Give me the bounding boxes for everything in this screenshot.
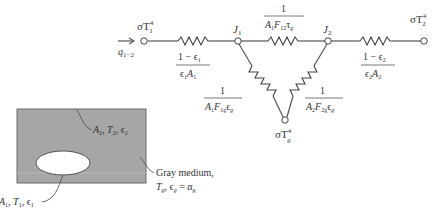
label-medium-line2: Tg, ϵg = αg [156, 181, 196, 193]
svg-text:1: 1 [220, 85, 225, 96]
svg-text:A1F12τg: A1F12τg [264, 19, 293, 31]
resistor-surface1-icon [178, 37, 210, 45]
node-eb1 [141, 38, 147, 44]
node-j2 [325, 38, 331, 44]
resistor-space12-icon [268, 37, 300, 45]
node-eb2 [421, 38, 427, 44]
svg-text:A1F1gϵg: A1F1gϵg [204, 101, 233, 113]
label-eb1: σT41 [137, 19, 154, 35]
node-ebg [282, 117, 288, 123]
node-j1 [235, 38, 241, 44]
inner-surface-1 [36, 151, 90, 175]
svg-text:1 − ϵ2: 1 − ϵ2 [363, 51, 386, 63]
resistance-surface2-label: 1 − ϵ2 ϵ2A2 [361, 51, 395, 80]
svg-text:1: 1 [320, 85, 325, 96]
label-surface2: A2, T2, ϵ2 [92, 124, 128, 136]
resistance-gas2-label: 1 A2F2gϵg [305, 85, 343, 113]
svg-text:1 − ϵ1: 1 − ϵ1 [178, 51, 201, 63]
radiation-network-diagram: q1−2 σT41 J1 J2 σT42 [0, 0, 433, 211]
label-eb2: σT42 [410, 12, 427, 28]
flux-arrow-icon [118, 38, 134, 44]
flux-label: q1−2 [118, 46, 134, 59]
network-circuit: q1−2 σT41 J1 J2 σT42 [118, 3, 427, 144]
svg-text:ϵ1A1: ϵ1A1 [180, 68, 196, 80]
svg-text:1: 1 [281, 3, 286, 14]
resistance-surface1-label: 1 − ϵ1 ϵ1A1 [176, 51, 210, 80]
label-j2: J2 [323, 23, 332, 37]
svg-text:A2F2gϵg: A2F2gϵg [305, 101, 334, 113]
resistor-gas2-icon [290, 66, 317, 96]
enclosure-sketch: A2, T2, ϵ2 A1, T1, ϵ1 Gray medium, Tg, ϵ… [0, 109, 214, 208]
resistance-gas1-label: 1 A1F1gϵg [204, 85, 242, 113]
branch-j1-gas [239, 44, 283, 117]
label-surface1: A1, T1, ϵ1 [0, 196, 34, 208]
label-ebg: σT4g [275, 127, 292, 144]
resistor-gas1-icon [249, 66, 276, 96]
svg-text:ϵ2A2: ϵ2A2 [365, 68, 381, 80]
resistor-surface2-icon [360, 37, 392, 45]
label-j1: J1 [233, 23, 242, 37]
resistance-space12-label: 1 A1F12τg [264, 3, 304, 31]
label-medium-line1: Gray medium, [156, 167, 214, 178]
